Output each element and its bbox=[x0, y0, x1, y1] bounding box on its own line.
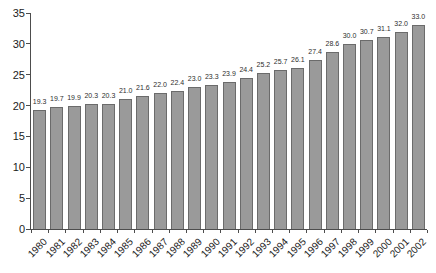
bar bbox=[171, 91, 184, 229]
x-tick-mark bbox=[152, 230, 153, 233]
bar bbox=[343, 44, 356, 229]
y-tick-label: 35 bbox=[0, 7, 25, 19]
x-tick-mark bbox=[31, 230, 32, 233]
y-tick-mark bbox=[26, 13, 30, 14]
y-tick-label: 10 bbox=[0, 161, 25, 173]
x-tick-mark bbox=[324, 230, 325, 233]
y-tick-mark bbox=[26, 167, 30, 168]
bar bbox=[102, 104, 115, 229]
bar bbox=[68, 106, 81, 229]
x-tick-mark bbox=[134, 230, 135, 233]
x-tick-mark bbox=[375, 230, 376, 233]
x-tick-mark bbox=[393, 230, 394, 233]
bar bbox=[50, 107, 63, 229]
bar bbox=[205, 85, 218, 229]
bar bbox=[309, 60, 322, 229]
x-tick-mark bbox=[220, 230, 221, 233]
bar bbox=[395, 32, 408, 229]
x-tick-mark bbox=[100, 230, 101, 233]
x-tick-mark bbox=[83, 230, 84, 233]
bar bbox=[240, 78, 253, 229]
bar bbox=[257, 73, 270, 229]
x-tick-mark bbox=[238, 230, 239, 233]
y-tick-mark bbox=[26, 198, 30, 199]
bar bbox=[291, 68, 304, 229]
x-tick-mark bbox=[341, 230, 342, 233]
bar bbox=[223, 82, 236, 229]
y-tick-label: 25 bbox=[0, 69, 25, 81]
x-tick-label-text: 2002 bbox=[405, 236, 429, 260]
x-tick-mark bbox=[306, 230, 307, 233]
y-tick-label: 15 bbox=[0, 130, 25, 142]
bar bbox=[326, 52, 339, 229]
bar-chart-figure: 0510152025303519.3198019.7198119.9198220… bbox=[0, 0, 436, 273]
y-tick-label: 0 bbox=[0, 223, 25, 235]
x-tick-mark bbox=[289, 230, 290, 233]
bar bbox=[274, 70, 287, 229]
x-tick-mark bbox=[410, 230, 411, 233]
x-tick-mark bbox=[272, 230, 273, 233]
y-tick-mark bbox=[26, 74, 30, 75]
bar bbox=[33, 110, 46, 229]
bar bbox=[360, 40, 373, 229]
bar bbox=[85, 104, 98, 229]
y-tick-label: 20 bbox=[0, 100, 25, 112]
x-tick-mark bbox=[255, 230, 256, 233]
bar bbox=[119, 99, 132, 229]
x-tick-mark bbox=[203, 230, 204, 233]
y-tick-mark bbox=[26, 229, 30, 230]
x-tick-mark bbox=[186, 230, 187, 233]
x-tick-mark bbox=[427, 230, 428, 233]
bar-value-label: 33.0 bbox=[403, 13, 433, 20]
y-tick-mark bbox=[26, 105, 30, 106]
bar bbox=[188, 87, 201, 229]
x-tick-mark bbox=[48, 230, 49, 233]
x-tick-mark bbox=[117, 230, 118, 233]
x-tick-mark bbox=[65, 230, 66, 233]
bar bbox=[154, 93, 167, 229]
y-tick-label: 5 bbox=[0, 192, 25, 204]
bar bbox=[412, 25, 425, 229]
x-tick-mark bbox=[169, 230, 170, 233]
y-tick-label: 30 bbox=[0, 38, 25, 50]
x-tick-mark bbox=[358, 230, 359, 233]
y-tick-mark bbox=[26, 136, 30, 137]
y-tick-mark bbox=[26, 43, 30, 44]
bar bbox=[136, 96, 149, 229]
bar bbox=[377, 37, 390, 229]
